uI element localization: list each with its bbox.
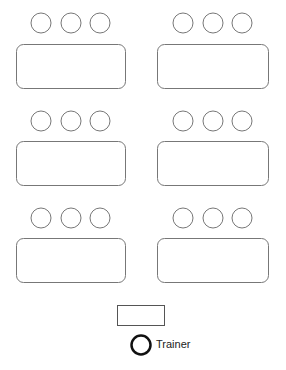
seat xyxy=(173,208,193,228)
table xyxy=(17,142,126,186)
table xyxy=(158,45,269,89)
seat xyxy=(90,13,110,33)
table xyxy=(17,45,126,89)
trainer-desk xyxy=(118,306,165,326)
seat xyxy=(61,13,81,33)
seat xyxy=(61,111,81,131)
seat xyxy=(203,13,223,33)
seat xyxy=(31,13,51,33)
seat xyxy=(232,208,252,228)
seating-diagram xyxy=(0,0,286,370)
seat xyxy=(31,111,51,131)
seat xyxy=(173,111,193,131)
seat xyxy=(232,111,252,131)
seat xyxy=(203,111,223,131)
seat xyxy=(173,13,193,33)
seat xyxy=(90,111,110,131)
seat xyxy=(31,208,51,228)
table-group-bottom-right xyxy=(158,208,269,283)
table xyxy=(17,239,126,283)
table-group-bottom-left xyxy=(17,208,126,283)
trainer-label: Trainer xyxy=(156,338,190,350)
table-group-top-left xyxy=(17,13,126,89)
table-group-middle-left xyxy=(17,111,126,186)
seat xyxy=(61,208,81,228)
table xyxy=(158,142,269,186)
seat xyxy=(90,208,110,228)
seat xyxy=(203,208,223,228)
seat xyxy=(232,13,252,33)
trainer-seat xyxy=(132,336,151,355)
table-group-top-right xyxy=(158,13,269,89)
table-group-middle-right xyxy=(158,111,269,186)
table xyxy=(158,239,269,283)
